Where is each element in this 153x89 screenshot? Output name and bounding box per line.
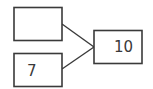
part-box-top-frame [14, 8, 62, 41]
number-bond-diagram: 7 10 [0, 0, 153, 89]
connector-top [62, 24, 94, 47]
whole-box[interactable]: 10 [94, 31, 142, 64]
part-box-bottom-frame [14, 54, 62, 87]
connector-bottom [62, 47, 94, 69]
whole-value: 10 [114, 38, 133, 56]
part-box-bottom[interactable]: 7 [14, 54, 62, 87]
part-box-top[interactable] [14, 8, 62, 41]
part-bottom-value: 7 [27, 62, 37, 80]
